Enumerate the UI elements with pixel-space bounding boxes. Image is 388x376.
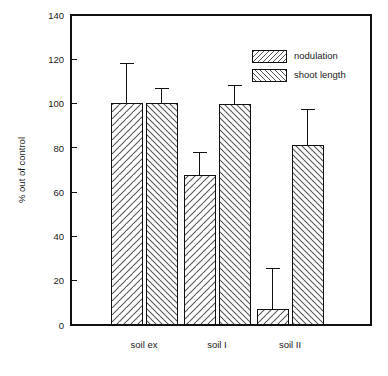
chart-figure: 140 120 100 80 60 40 20 0 % out of contr… — [0, 0, 388, 376]
x-tick-label-soil-ii: soil II — [279, 339, 301, 350]
y-tick-label-80: 80 — [53, 143, 64, 154]
bar-shoot-length-soil-ex — [146, 104, 177, 325]
y-tick-label-60: 60 — [53, 187, 64, 198]
bar-nodulation-soil-ii — [257, 310, 288, 326]
bar-chart-svg: 140 120 100 80 60 40 20 0 % out of contr… — [0, 0, 388, 376]
bar-nodulation-soil-i — [184, 176, 215, 326]
legend-label-nodulation: nodulation — [294, 50, 338, 61]
y-tick-label-100: 100 — [48, 98, 64, 109]
y-tick-label-40: 40 — [53, 231, 64, 242]
bar-nodulation-soil-ex — [111, 104, 142, 325]
y-tick-label-20: 20 — [53, 275, 64, 286]
x-tick-label-soil-i: soil I — [207, 339, 227, 350]
legend-label-shoot-length: shoot length — [294, 69, 346, 80]
x-axis: soil ex soil I soil II — [131, 339, 302, 350]
y-tick-label-120: 120 — [48, 54, 64, 65]
y-tick-label-140: 140 — [48, 10, 64, 21]
bar-shoot-length-soil-ii — [292, 146, 323, 325]
y-tick-label-0: 0 — [59, 320, 64, 331]
legend-swatch-shoot-length — [252, 69, 286, 81]
x-tick-label-soil-ex: soil ex — [131, 339, 158, 350]
bar-shoot-length-soil-i — [219, 105, 250, 325]
y-axis-title: % out of control — [16, 137, 27, 203]
legend-swatch-nodulation — [252, 50, 286, 62]
